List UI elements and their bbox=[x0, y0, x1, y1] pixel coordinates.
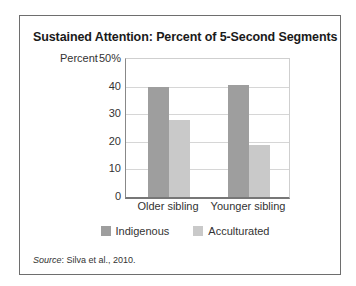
legend-swatch bbox=[101, 226, 111, 236]
legend-label: Indigenous bbox=[116, 225, 170, 237]
bar-indigenous-0 bbox=[148, 87, 169, 197]
y-tick-label: 10 bbox=[81, 162, 121, 174]
legend-item: Indigenous bbox=[87, 225, 170, 237]
legend-item: Acculturated bbox=[179, 225, 269, 237]
bar-acculturated-0 bbox=[169, 120, 190, 197]
source-label: Source bbox=[33, 255, 62, 265]
source-text: : Silva et al., 2010. bbox=[62, 255, 136, 265]
y-tick-label: 40 bbox=[81, 80, 121, 92]
source-note: Source: Silva et al., 2010. bbox=[33, 255, 136, 265]
y-tick-label: 30 bbox=[81, 107, 121, 119]
plot-area bbox=[125, 58, 290, 199]
y-tick-label: 20 bbox=[81, 135, 121, 147]
y-tick-label: 50% bbox=[81, 52, 121, 64]
chart-title: Sustained Attention: Percent of 5-Second… bbox=[33, 30, 337, 44]
legend-label: Acculturated bbox=[208, 225, 269, 237]
y-tick-label: 0 bbox=[81, 190, 121, 202]
legend-swatch bbox=[193, 226, 203, 236]
legend: IndigenousAcculturated bbox=[0, 225, 356, 237]
x-category-label: Younger sibling bbox=[203, 200, 293, 212]
bar-acculturated-1 bbox=[249, 145, 270, 197]
bar-indigenous-1 bbox=[228, 85, 249, 197]
x-category-label: Older sibling bbox=[123, 200, 213, 212]
